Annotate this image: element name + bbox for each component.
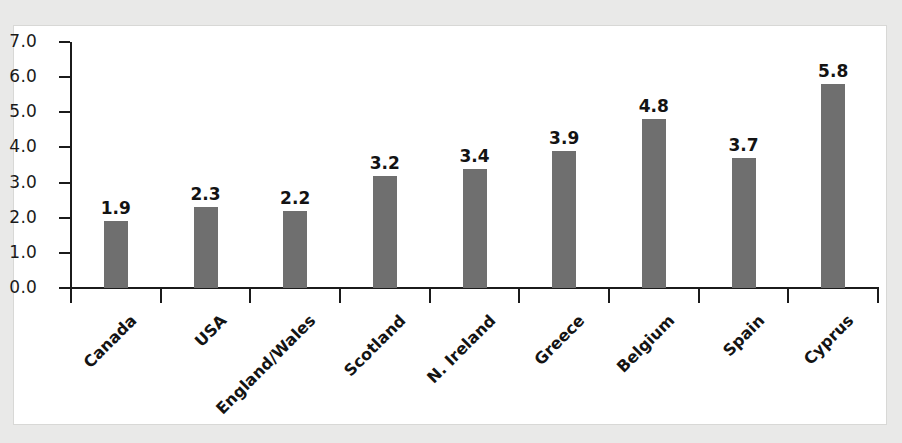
y-axis-tick-label: 0.0 — [9, 279, 37, 296]
bar-value-label: 3.2 — [350, 155, 420, 172]
y-axis-tick-label: 6.0 — [9, 68, 37, 85]
x-axis-tick — [608, 289, 610, 303]
bar-value-label: 1.9 — [81, 200, 151, 217]
y-axis-tick-label: 2.0 — [9, 209, 37, 226]
bar[interactable] — [642, 119, 666, 288]
x-axis-tick — [518, 289, 520, 303]
bar[interactable] — [552, 151, 576, 288]
y-axis-tick-label: 3.0 — [9, 174, 37, 191]
y-axis-tick-label: 5.0 — [9, 103, 37, 120]
x-axis-tick — [70, 289, 72, 303]
y-axis-line — [70, 42, 72, 290]
y-axis-tick — [59, 111, 70, 113]
bar-value-label: 2.2 — [260, 190, 330, 207]
bar[interactable] — [463, 169, 487, 288]
y-axis-tick-label: 7.0 — [9, 33, 37, 50]
y-axis-tick — [59, 146, 70, 148]
y-axis-tick — [59, 287, 70, 289]
x-axis-tick — [698, 289, 700, 303]
bar[interactable] — [821, 84, 845, 288]
y-axis-tick — [59, 76, 70, 78]
bar[interactable] — [732, 158, 756, 288]
bar-value-label: 5.8 — [798, 63, 868, 80]
y-axis-tick-label: 1.0 — [9, 244, 37, 261]
chart-page: 7.06.05.04.03.02.01.00.01.9Canada2.3USA2… — [0, 0, 902, 443]
x-axis-tick — [249, 289, 251, 303]
bar-value-label: 4.8 — [619, 98, 689, 115]
x-axis-tick — [339, 289, 341, 303]
x-axis-tick — [160, 289, 162, 303]
x-axis-tick — [787, 289, 789, 303]
x-axis-tick — [429, 289, 431, 303]
bar[interactable] — [373, 176, 397, 288]
y-axis-tick — [59, 41, 70, 43]
bar-value-label: 3.7 — [709, 137, 779, 154]
bar-value-label: 2.3 — [171, 186, 241, 203]
y-axis-tick — [59, 217, 70, 219]
bar[interactable] — [194, 207, 218, 288]
chart-panel: 7.06.05.04.03.02.01.00.01.9Canada2.3USA2… — [13, 25, 887, 425]
x-axis-tick — [877, 289, 879, 303]
bar-value-label: 3.4 — [440, 148, 510, 165]
plot-area: 7.06.05.04.03.02.01.00.01.9Canada2.3USA2… — [14, 26, 886, 424]
y-axis-tick — [59, 252, 70, 254]
bar[interactable] — [283, 211, 307, 288]
y-axis-tick — [59, 182, 70, 184]
bar-value-label: 3.9 — [529, 130, 599, 147]
bar[interactable] — [104, 221, 128, 288]
y-axis-tick-label: 4.0 — [9, 138, 37, 155]
